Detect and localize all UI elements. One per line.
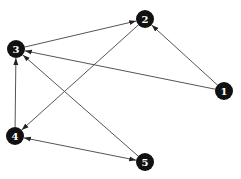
nodes-group: 12345 xyxy=(6,10,233,171)
node-label: 5 xyxy=(142,157,149,168)
node-1: 1 xyxy=(215,82,233,100)
edge-1-to-2 xyxy=(152,25,218,85)
node-3: 3 xyxy=(7,40,25,58)
node-label: 4 xyxy=(12,131,19,142)
edge-3-to-2 xyxy=(25,21,136,47)
node-2: 2 xyxy=(136,10,154,28)
node-label: 2 xyxy=(142,14,149,25)
edge-2-to-4 xyxy=(22,25,139,130)
edge-4-to-5 xyxy=(24,138,136,160)
node-label: 1 xyxy=(221,86,228,97)
node-4: 4 xyxy=(6,127,24,145)
directed-graph: 12345 xyxy=(0,0,241,179)
node-5: 5 xyxy=(136,153,154,171)
edge-4-to-3 xyxy=(15,58,16,127)
node-label: 3 xyxy=(13,44,20,55)
edges-group xyxy=(15,21,217,160)
